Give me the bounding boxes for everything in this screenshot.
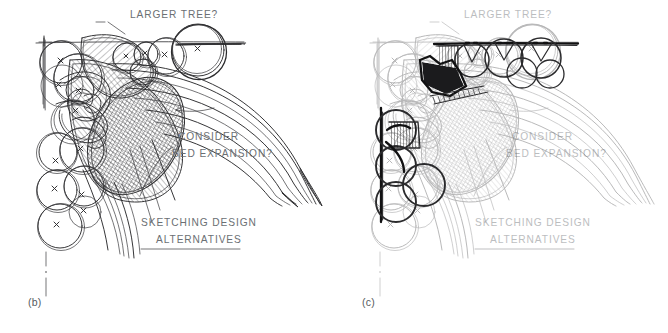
plant-symbol	[69, 196, 101, 228]
centerline-dash-dot	[45, 252, 47, 296]
datum-extension	[178, 44, 241, 45]
title-block-line2: ALTERNATIVES	[156, 234, 242, 245]
consider-note-line2: BED EXPANSION?	[172, 148, 273, 159]
tree-symbol	[148, 38, 187, 77]
panel-b-sketch: LARGER TREE? CONSIDER BED EXPANSION? SKE…	[0, 0, 334, 333]
revised-mid-bed-hatch	[388, 120, 422, 150]
panel-c-sketch: LARGER TREE? CONSIDER BED EXPANSION? SKE…	[334, 0, 668, 333]
consider-note-line1: CONSIDER	[512, 131, 573, 142]
panel-b: LARGER TREE? CONSIDER BED EXPANSION? SKE…	[0, 0, 334, 333]
consider-note-line2: BED EXPANSION?	[506, 148, 607, 159]
figure-canvas: LARGER TREE? CONSIDER BED EXPANSION? SKE…	[0, 0, 668, 333]
consider-note-line1: CONSIDER	[178, 131, 239, 142]
plant-symbol	[37, 170, 80, 213]
title-block-line1: SKETCHING DESIGN	[141, 217, 257, 228]
larger-tree-note: LARGER TREE?	[130, 9, 218, 20]
tree-symbol-large	[172, 24, 227, 80]
plant-symbol	[38, 204, 85, 251]
panel-c-caption: (c)	[362, 296, 375, 308]
title-block-line2: ALTERNATIVES	[490, 234, 576, 245]
centerline-dash-dot-faded	[379, 252, 381, 296]
larger-tree-note: LARGER TREE?	[464, 9, 552, 20]
panel-b-caption: (b)	[28, 296, 41, 308]
title-block-line1: SKETCHING DESIGN	[475, 217, 591, 228]
plant-symbol	[37, 133, 78, 174]
panel-c: LARGER TREE? CONSIDER BED EXPANSION? SKE…	[334, 0, 668, 333]
